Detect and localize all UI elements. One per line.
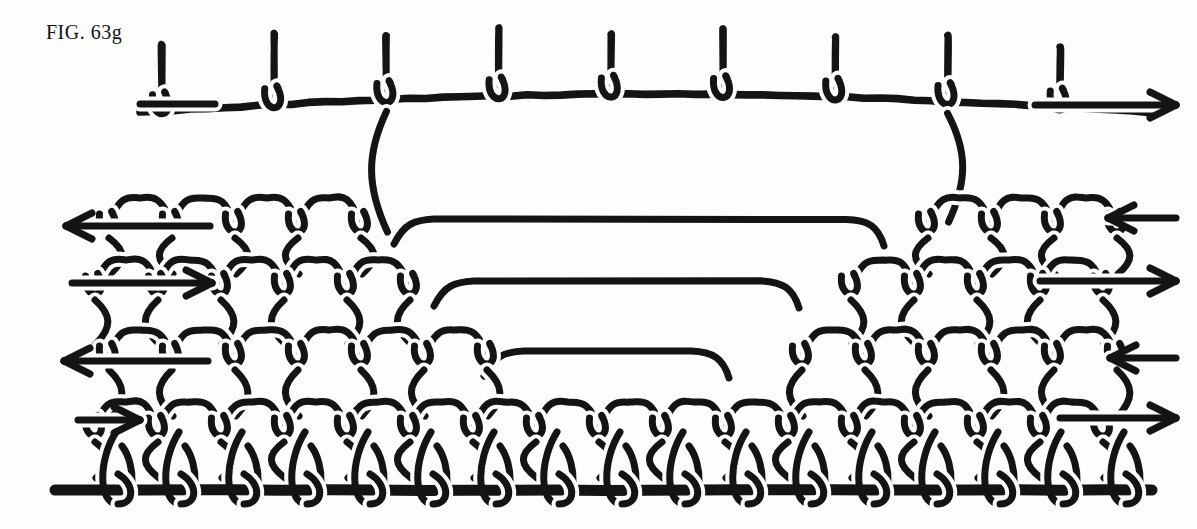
mesh-rows [85, 28, 1150, 504]
foundation-cord [55, 490, 1152, 491]
looping-diagram [0, 0, 1197, 529]
thread-halo [484, 351, 729, 378]
thread-halo [394, 219, 884, 246]
arrow-row-4 [64, 348, 208, 374]
thread-halo [434, 281, 799, 308]
figure-root: FIG. 63g [0, 0, 1197, 529]
arrow-row-2 [66, 213, 210, 239]
